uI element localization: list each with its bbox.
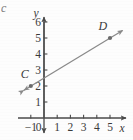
y-tick-label: 5 [35,32,41,44]
x-axis-tick-labels: −1012345 [25,121,113,133]
x-tick-label: 5 [107,121,113,133]
y-tick-label: 1 [35,96,41,108]
y-axis-tick-labels: 123456 [35,16,41,108]
y-axis-label: y [32,7,39,20]
x-tick-label: 4 [94,121,100,133]
point-label-d: D [97,19,107,33]
data-point-d [108,36,112,40]
x-tick-label: 0 [36,121,42,133]
x-tick-label: 1 [54,121,60,133]
y-tick-label: 3 [35,64,41,76]
x-axis-label: x [118,122,125,134]
x-tick-label: 2 [68,121,74,133]
point-label-c: C [21,67,30,81]
data-point-c [29,84,33,88]
x-tick-label: 3 [81,121,87,133]
coordinate-plane-figure: c −1012345 123456 x y CD [0,0,133,140]
y-tick-label: 4 [35,48,41,60]
coordinate-plane-svg: −1012345 123456 x y CD [0,0,133,140]
